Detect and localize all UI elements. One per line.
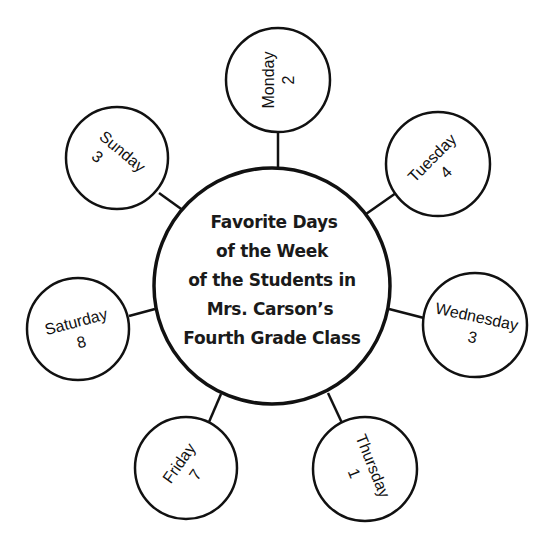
connector-sunday	[159, 193, 184, 211]
connector-friday	[209, 394, 221, 422]
monday-circle	[226, 28, 330, 132]
center-node: Favorite Days of the Week of the Student…	[154, 168, 390, 404]
connector-saturday	[129, 309, 155, 316]
tuesday-circle	[386, 112, 490, 216]
day-node-thursday: Thursday 1	[313, 417, 417, 521]
day-node-sunday: Sunday 3	[66, 107, 168, 209]
monday-count: 2	[280, 75, 297, 84]
title-line-1: Favorite Days	[211, 212, 338, 232]
friday-circle	[135, 417, 237, 519]
title-line-3: of the Students in	[188, 270, 356, 290]
day-node-tuesday: Tuesday 4	[386, 112, 490, 216]
day-node-friday: Friday 7	[135, 417, 237, 519]
title-line-5: Fourth Grade Class	[183, 328, 360, 348]
connector-tuesday	[366, 193, 396, 214]
title-line-2: of the Week	[216, 241, 329, 261]
favorite-days-web-diagram: Favorite Days of the Week of the Student…	[0, 0, 551, 555]
connector-thursday	[328, 393, 342, 423]
title-line-4: Mrs. Carson’s	[207, 299, 334, 319]
day-node-saturday: Saturday 8	[27, 278, 129, 380]
day-node-monday: Monday 2	[226, 28, 330, 132]
connector-wednesday	[389, 309, 424, 318]
monday-label: Monday	[260, 52, 277, 109]
sunday-circle	[66, 107, 168, 209]
day-node-wednesday: Wednesday 3	[423, 273, 527, 377]
